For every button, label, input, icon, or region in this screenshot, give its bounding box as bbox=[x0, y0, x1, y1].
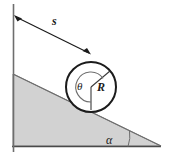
incline-angle-label-alpha: α bbox=[106, 134, 112, 146]
rotation-angle-label-theta: θ bbox=[77, 81, 82, 92]
distance-label-s: s bbox=[52, 15, 57, 27]
distance-arrowhead-end bbox=[83, 48, 92, 55]
diagram-canvas bbox=[0, 0, 169, 161]
radius-label-r: R bbox=[97, 81, 105, 93]
distance-arrowhead-start bbox=[14, 15, 22, 22]
physics-diagram-figure: s θ R α bbox=[0, 0, 169, 161]
